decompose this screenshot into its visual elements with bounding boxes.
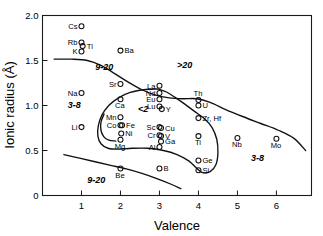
field-boundary-curves (54, 59, 305, 189)
data-label-Li: Li (72, 123, 78, 132)
field-curve-upper-boundary (54, 59, 305, 150)
data-point-B (157, 166, 162, 171)
y-axis-ticks (43, 16, 48, 196)
data-label-Th: Th (194, 89, 203, 98)
data-point-La (157, 83, 162, 88)
y-axis-tick-labels: 00.51.01.52.0 (25, 10, 38, 201)
data-point-labels: CsRbTlKBaSrLaNaNdCaEuThULuYMnZr, HfCoFeL… (68, 22, 281, 179)
data-label-Cr: Cr (147, 131, 155, 140)
data-point-V (159, 134, 164, 139)
data-label-K: K (72, 47, 77, 56)
data-label-Sr: Sr (109, 80, 117, 89)
chart-canvas: 123456 00.51.01.52.0 Valence Ionic radiu… (0, 0, 323, 236)
y-tick-label-0: 0 (33, 190, 38, 201)
y-tick-label-0.5: 0.5 (25, 145, 38, 156)
data-label-Ca: Ca (115, 101, 125, 110)
data-point-Ni (119, 131, 124, 136)
data-point-Al (157, 144, 162, 149)
data-point-Zr-Hf (196, 116, 201, 121)
y-tick-label-1.0: 1.0 (25, 100, 38, 111)
data-label-Al: Al (149, 143, 156, 152)
region-label-3-8-4: 3-8 (251, 153, 264, 163)
region-label-x2-3: <2 (138, 104, 148, 114)
x-tick-label-3: 3 (157, 200, 162, 211)
data-point-Ba (118, 48, 123, 53)
data-label-Cs: Cs (68, 22, 77, 31)
data-point-Sr (118, 81, 123, 86)
x-tick-label-5: 5 (235, 200, 240, 211)
x-tick-label-4: 4 (196, 200, 201, 211)
data-point-Nd (157, 90, 162, 95)
data-label-U: U (202, 101, 207, 110)
data-point-Na (79, 90, 84, 95)
data-label-Nb: Nb (232, 140, 242, 149)
y-tick-label-2.0: 2.0 (25, 10, 38, 21)
data-label-Ba: Ba (124, 46, 134, 55)
x-axis-ticks (81, 191, 276, 196)
data-point-U (196, 103, 201, 108)
data-label-Ti: Ti (195, 138, 201, 147)
y-axis-title: Ionic radius (Å) (2, 61, 17, 148)
data-label-Mg: Mg (115, 142, 126, 151)
ionic-radius-valence-chart: 123456 00.51.01.52.0 Valence Ionic radiu… (0, 0, 323, 236)
data-point-Ge (196, 158, 201, 163)
data-point-Ga (159, 139, 164, 144)
region-label-9-20-5: 9-20 (87, 175, 105, 185)
data-label-Ni: Ni (125, 129, 132, 138)
x-axis-tick-labels: 123456 (79, 200, 279, 211)
data-label-B: B (163, 164, 168, 173)
y-tick-label-1.5: 1.5 (25, 55, 38, 66)
x-tick-label-2: 2 (118, 200, 123, 211)
x-tick-label-1: 1 (79, 200, 84, 211)
data-label-Na: Na (68, 89, 78, 98)
region-label-9-20-0: 9-20 (95, 62, 113, 72)
data-point-Cu (159, 126, 164, 131)
data-label-Si: Si (202, 166, 209, 175)
x-axis-title: Valence (154, 218, 200, 233)
region-label-x20-1: >20 (177, 60, 192, 70)
data-label-Tl: Tl (87, 42, 94, 51)
data-point-Li (79, 125, 84, 130)
x-tick-label-6: 6 (274, 200, 279, 211)
data-label-Mo: Mo (271, 141, 282, 150)
data-label-Ga: Ga (165, 137, 176, 146)
region-label-3-8-2: 3-8 (68, 100, 81, 110)
data-label-Ge: Ge (202, 156, 212, 165)
data-label-Rb: Rb (68, 38, 78, 47)
data-point-K (79, 49, 84, 54)
data-label-Y: Y (166, 105, 171, 114)
data-point-Eu (157, 97, 162, 102)
data-label-Co: Co (107, 121, 117, 130)
plot-frame (43, 16, 312, 196)
data-point-Mn (118, 115, 123, 120)
data-label-Be: Be (115, 171, 124, 180)
data-point-Th (196, 98, 201, 103)
data-label-Zr-Hf: Zr, Hf (202, 114, 221, 123)
data-point-Cs (79, 24, 84, 29)
